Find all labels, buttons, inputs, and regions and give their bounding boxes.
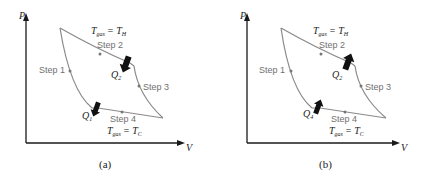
bottom-temp-label: Tgas= TC	[329, 125, 365, 137]
p-axis-label: P	[239, 10, 246, 21]
v-axis-label: V	[401, 142, 409, 153]
panel-a: P V Tgas= TH Step 2 Step 1 Step 3 Step 4…	[18, 10, 194, 171]
step1-curve	[281, 28, 312, 108]
v-axis-label: V	[186, 142, 194, 153]
top-temp-label: Tgas= TH	[91, 25, 127, 37]
q1-label: Q1	[82, 110, 92, 122]
top-temp-label: Tgas= TH	[313, 25, 349, 37]
v-axis-arrow-icon	[392, 140, 400, 146]
pv-diagrams: P V Tgas= TH Step 2 Step 1 Step 3 Step 4…	[0, 0, 428, 176]
step3-label: Step 3	[143, 82, 169, 92]
step2-label: Step 2	[319, 40, 345, 50]
step2-label: Step 2	[97, 40, 123, 50]
step3-curve	[355, 66, 386, 118]
p-axis-label: P	[18, 10, 25, 21]
q2-heat-arrow-icon	[340, 51, 357, 71]
step4-label: Step 4	[110, 114, 136, 124]
step1-label: Step 1	[39, 65, 65, 75]
step4-label: Step 4	[331, 114, 357, 124]
q4-heat-arrow-icon	[311, 98, 326, 116]
v-axis-arrow-icon	[177, 140, 185, 146]
step3-label: Step 3	[365, 82, 391, 92]
q4-label: Q4	[303, 108, 313, 120]
panel-b: P V Tgas= TH Step 2 Step 1 Step 3 Step 4…	[239, 10, 409, 171]
step1-label: Step 1	[259, 65, 285, 75]
step3-curve	[134, 66, 163, 118]
caption-b: (b)	[319, 158, 332, 171]
q2-label: Q2	[332, 69, 342, 81]
bottom-temp-label: Tgas= TC	[107, 125, 143, 137]
q2-label: Q2	[111, 69, 121, 81]
caption-a: (a)	[99, 158, 112, 171]
